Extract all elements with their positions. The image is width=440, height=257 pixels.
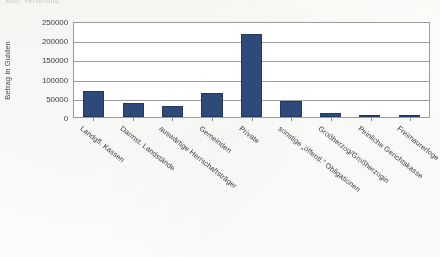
- bar: [320, 113, 341, 117]
- bar-slot: [350, 23, 389, 117]
- x-label-slot: auswärtige Herrschaftsträger: [152, 122, 192, 242]
- bar: [123, 103, 144, 117]
- x-label-slot: Landgfl. Kassen: [73, 122, 113, 242]
- bar: [280, 101, 301, 117]
- x-axis-category-labels: Landgfl. KassenDarmst. Landständeauswärt…: [73, 122, 430, 242]
- bar: [241, 34, 262, 117]
- y-tick-label: 250000: [42, 18, 68, 27]
- y-axis-title-label: Betrag in Gulden: [3, 41, 12, 100]
- bar: [201, 93, 222, 117]
- bar: [162, 106, 183, 117]
- bar-slot: [192, 23, 231, 117]
- bar-slot: [232, 23, 271, 117]
- bar-slot: [153, 23, 192, 117]
- bar-slot: [113, 23, 152, 117]
- bar-series: [74, 23, 429, 117]
- plot-area: [73, 22, 430, 118]
- x-axis-label: Private: [237, 124, 261, 145]
- x-label-slot: Freimaurerloge: [390, 122, 430, 242]
- cut-off-caption: Abb. Verteilung: [6, 0, 59, 4]
- y-axis-title: Betrag in Gulden: [0, 18, 14, 122]
- chart-page: Abb. Verteilung Betrag in Gulden 2500002…: [0, 0, 440, 257]
- x-axis-label: Freimaurerloge: [396, 124, 440, 162]
- x-label-slot: Großherzog/Großherzogin: [311, 122, 351, 242]
- x-label-slot: Gemeinden: [192, 122, 232, 242]
- y-axis-tick-labels: 250000200000150000100000500000: [16, 22, 71, 118]
- bar-slot: [311, 23, 350, 117]
- bar-slot: [390, 23, 429, 117]
- y-tick-label: 150000: [42, 56, 68, 65]
- y-tick-label: 100000: [42, 75, 68, 84]
- x-label-slot: Private: [232, 122, 272, 242]
- y-tick-label: 0: [64, 114, 68, 123]
- y-tick-label: 50000: [46, 94, 68, 103]
- bar-slot: [74, 23, 113, 117]
- x-label-slot: sonstige „öffentl." Obligationen: [271, 122, 311, 242]
- bar: [83, 91, 104, 117]
- bar: [359, 115, 380, 117]
- bar-slot: [271, 23, 310, 117]
- bar: [399, 115, 420, 117]
- x-axis-label: Gemeinden: [197, 124, 233, 155]
- y-tick-label: 200000: [42, 37, 68, 46]
- x-label-slot: Peinliche Gerichtskasse: [351, 122, 391, 242]
- x-label-slot: Darmst. Landstände: [113, 122, 153, 242]
